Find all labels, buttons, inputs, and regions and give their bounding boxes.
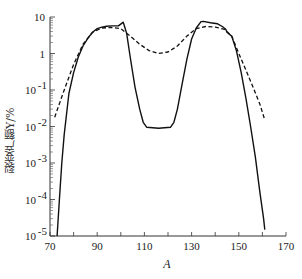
x-axis-title: A bbox=[162, 257, 171, 271]
x-tick-label: 110 bbox=[136, 240, 153, 252]
y-tick-label: 10 bbox=[25, 194, 37, 206]
y-tick-label: 10 bbox=[25, 230, 37, 242]
y-tick-exponent: -5 bbox=[38, 225, 48, 237]
x-tick-label: 150 bbox=[231, 240, 248, 252]
y-tick-exponent: -1 bbox=[38, 79, 47, 91]
x-tick-label: 70 bbox=[45, 240, 57, 252]
y-tick-exponent: -3 bbox=[38, 152, 48, 164]
x-tick-label: 90 bbox=[92, 240, 104, 252]
axes: 709011013015017010110-110-210-310-410-5 bbox=[25, 11, 295, 252]
fission-yield-chart: 709011013015017010110-110-210-310-410-5 … bbox=[0, 0, 302, 279]
y-axis-title: 裂变产额Y/% bbox=[3, 95, 19, 185]
y-tick-label: 10 bbox=[25, 121, 37, 133]
y-tick-label: 10 bbox=[25, 157, 37, 169]
y-tick-label: 10 bbox=[34, 11, 46, 23]
y-tick-label: 10 bbox=[25, 84, 37, 96]
x-tick-label: 170 bbox=[278, 240, 295, 252]
y-tick-label: 1 bbox=[40, 48, 46, 60]
y-tick-exponent: -2 bbox=[38, 116, 47, 128]
x-tick-label: 130 bbox=[183, 240, 200, 252]
curves bbox=[55, 21, 265, 236]
y-tick-exponent: -4 bbox=[38, 189, 48, 201]
